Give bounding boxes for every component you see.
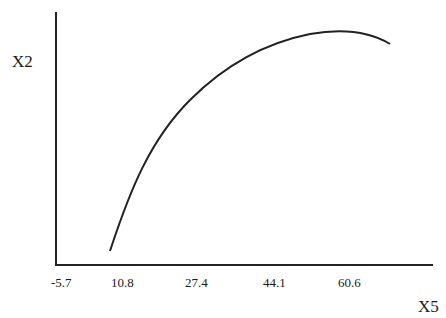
- x-tick-label: 60.6: [338, 275, 361, 291]
- chart-container: X2 X5 -5.7 10.8 27.4 44.1 60.6: [0, 0, 446, 318]
- x-tick-label: 44.1: [263, 275, 286, 291]
- x-tick-label: -5.7: [51, 275, 72, 291]
- x-tick-label: 10.8: [111, 275, 134, 291]
- chart-svg: [0, 0, 446, 318]
- x-tick-label: 27.4: [185, 275, 208, 291]
- y-axis-title: X2: [12, 52, 33, 72]
- x-axis-title: X5: [418, 297, 439, 317]
- data-curve: [110, 31, 390, 251]
